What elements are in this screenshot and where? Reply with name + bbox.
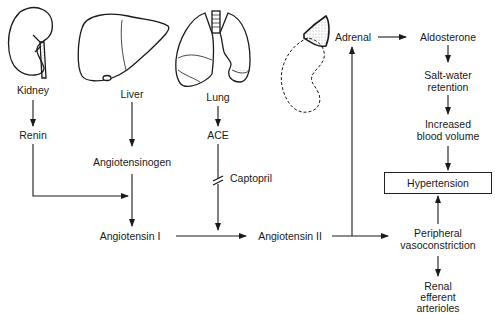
aldosterone-label: Aldosterone (420, 31, 476, 43)
lung-illustration (176, 11, 250, 86)
kidney-label: Kidney (17, 84, 49, 96)
liver-illustration (78, 14, 169, 81)
renin-label: Renin (19, 129, 46, 141)
captopril-label: Captopril (230, 172, 272, 184)
lung-label: Lung (206, 91, 229, 103)
vasoconstriction-label-2: vasoconstriction (400, 239, 475, 251)
kidney-illustration (9, 8, 53, 78)
vasoconstriction-label-1: Peripheral (414, 227, 462, 239)
ace-label: ACE (207, 129, 229, 141)
angiotensinogen-label: Angiotensinogen (93, 156, 171, 168)
adrenal-label: Adrenal (335, 31, 371, 43)
blood-volume-label-2: blood volume (417, 130, 479, 142)
blood-volume-label-1: Increased (425, 118, 471, 130)
salt-water-label-1: Salt-water (424, 69, 471, 81)
hypertension-label: Hypertension (407, 177, 469, 189)
liver-label: Liver (121, 88, 144, 100)
hypertension-box: Hypertension (384, 172, 492, 194)
renal-label-3: arterioles (416, 302, 459, 314)
salt-water-label-2: retention (428, 81, 469, 93)
angiotensin-i-label: Angiotensin I (100, 230, 161, 242)
adrenal-kidney-illustration (281, 16, 329, 112)
angiotensin-ii-label: Angiotensin II (258, 230, 322, 242)
